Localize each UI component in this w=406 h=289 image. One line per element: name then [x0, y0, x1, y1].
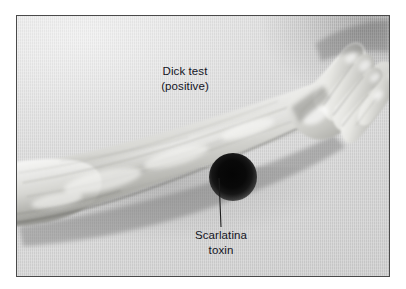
- scarlatina-toxin-label-line2: toxin: [161, 243, 281, 258]
- dick-test-label-line2: (positive): [124, 79, 246, 94]
- dick-test-label: Dick test (positive): [124, 64, 246, 93]
- scarlatina-toxin-label-line1: Scarlatina: [161, 228, 281, 243]
- scarlatina-toxin-label: Scarlatina toxin: [161, 228, 281, 257]
- dick-test-label-line1: Dick test: [124, 64, 246, 79]
- injection-site-lesion: [209, 153, 257, 201]
